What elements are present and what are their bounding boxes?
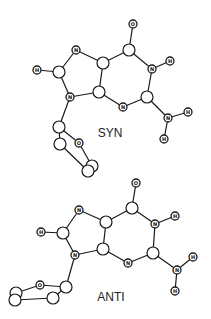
atom-carbon-s3 (9, 294, 21, 306)
atom-hydrogen-h1: H (171, 212, 179, 220)
atom-carbon-c4 (93, 86, 105, 98)
anti-atoms: ONHNNHNNHHO (9, 179, 197, 306)
atom-hydrogen-h2b: H (160, 135, 168, 143)
atom-label: O (134, 180, 138, 186)
atom-circle-icon (82, 165, 94, 177)
atom-label: H (191, 254, 195, 260)
atom-carbon-s1 (53, 121, 65, 133)
anti-conformer: ONHNNHNNHHO ANTI (9, 179, 197, 306)
atom-nitrogen-n7: N (72, 46, 80, 54)
atom-label: N (77, 207, 81, 213)
atom-label: O (77, 140, 81, 146)
atom-label: O (131, 21, 135, 27)
atom-hydrogen-h1: H (166, 57, 174, 65)
atom-carbon-s2 (54, 138, 66, 150)
atom-nitrogen-n2: N (164, 114, 172, 122)
atom-label: H (168, 58, 172, 64)
guanosine-syn-anti-diagram: ONHNNHNNHHO SYN ONHNNHNNHHO ANTI (0, 0, 211, 319)
atom-circle-icon (57, 227, 69, 239)
atom-label: N (150, 66, 154, 72)
atom-carbon-c6 (126, 202, 138, 214)
atom-label: N (126, 260, 130, 266)
atom-carbon-c6 (123, 44, 135, 56)
atom-nitrogen-n3: N (124, 259, 132, 267)
atom-label: N (166, 115, 170, 121)
atom-circle-icon (47, 292, 59, 304)
atom-nitrogen-n9: N (71, 251, 79, 259)
atom-label: N (153, 221, 157, 227)
atom-hydrogen-h2a: H (184, 108, 192, 116)
atom-circle-icon (141, 91, 153, 103)
atom-circle-icon (9, 294, 21, 306)
atom-circle-icon (53, 121, 65, 133)
atom-hydrogen-h8: H (33, 66, 41, 74)
atom-hydrogen-h2a: H (189, 253, 197, 261)
atom-oxygen-o6: O (129, 20, 137, 28)
atom-circle-icon (97, 243, 109, 255)
atom-carbon-c8 (57, 227, 69, 239)
atom-circle-icon (60, 281, 72, 293)
atom-circle-icon (147, 247, 159, 259)
atom-carbon-s3 (82, 165, 94, 177)
atom-nitrogen-n7: N (75, 206, 83, 214)
atom-label: N (175, 267, 179, 273)
atom-label: N (73, 252, 77, 258)
atom-carbon-s1 (60, 281, 72, 293)
atom-label: H (35, 67, 39, 73)
atom-label: H (173, 213, 177, 219)
syn-conformer: ONHNNHNNHHO SYN (33, 20, 192, 177)
atom-nitrogen-n2: N (173, 266, 181, 274)
atom-carbon-s2 (47, 292, 59, 304)
atom-circle-icon (53, 66, 65, 78)
atom-carbon-c2 (147, 247, 159, 259)
atom-nitrogen-n1: N (151, 220, 159, 228)
atom-oxygen-so: O (36, 281, 44, 289)
atom-label: N (74, 47, 78, 53)
syn-atoms: ONHNNHNNHHO (33, 20, 192, 177)
atom-label: O (38, 282, 42, 288)
atom-oxygen-o6: O (132, 179, 140, 187)
atom-hydrogen-h2b: H (171, 287, 179, 295)
atom-circle-icon (54, 138, 66, 150)
atom-label: H (39, 229, 43, 235)
atom-oxygen-so: O (75, 139, 83, 147)
atom-nitrogen-n3: N (119, 103, 127, 111)
atom-carbon-c8 (53, 66, 65, 78)
atom-label: H (162, 136, 166, 142)
atom-label: N (121, 104, 125, 110)
atom-label: N (68, 94, 72, 100)
syn-caption: SYN (98, 126, 123, 140)
atom-circle-icon (126, 202, 138, 214)
atom-carbon-c5 (97, 57, 109, 69)
atom-circle-icon (123, 44, 135, 56)
atom-circle-icon (97, 57, 109, 69)
atom-label: H (186, 109, 190, 115)
atom-carbon-c2 (141, 91, 153, 103)
atom-label: H (173, 288, 177, 294)
atom-circle-icon (93, 86, 105, 98)
atom-nitrogen-n1: N (148, 65, 156, 73)
atom-nitrogen-n9: N (66, 93, 74, 101)
atom-circle-icon (100, 216, 112, 228)
atom-hydrogen-h8: H (37, 228, 45, 236)
atom-carbon-c5 (100, 216, 112, 228)
anti-caption: ANTI (97, 290, 124, 304)
atom-carbon-c4 (97, 243, 109, 255)
